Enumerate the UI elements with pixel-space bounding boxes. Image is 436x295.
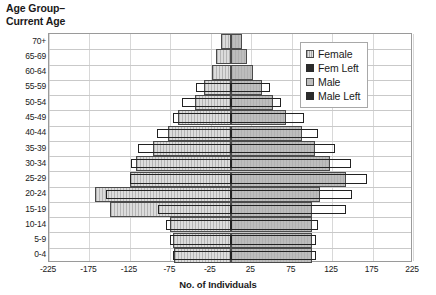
bar-femleft — [182, 98, 231, 107]
x-tick-label: 25 — [246, 264, 255, 275]
legend-item-maleleft: Male Left — [306, 89, 360, 103]
legend-swatch-icon — [306, 64, 314, 72]
legend-label: Male — [318, 76, 340, 88]
bar-femleft — [166, 220, 231, 229]
x-tick-label: -175 — [80, 264, 96, 275]
y-tick-label: 10-14 — [2, 219, 46, 229]
x-axis-title: No. of Individuals — [0, 279, 436, 290]
legend-label: Female — [318, 48, 352, 60]
y-tick-label: 0-4 — [2, 249, 46, 259]
bar-maleleft — [231, 205, 346, 214]
population-pyramid-chart: Age Group– Current Age 70+65-6960-6455-5… — [0, 0, 436, 295]
x-tick-label: 75 — [286, 264, 295, 275]
y-tick-label: 65-69 — [2, 51, 46, 61]
x-tick-label: 225 — [405, 264, 419, 275]
bar-femleft — [173, 251, 231, 260]
bar-male — [231, 49, 247, 64]
legend-label: Male Left — [318, 90, 360, 102]
x-tick-label: 175 — [365, 264, 379, 275]
legend-item-female: Female — [306, 47, 360, 61]
legend-swatch-icon — [306, 92, 314, 100]
bar-maleleft — [231, 235, 316, 244]
x-tick-label: -225 — [40, 264, 56, 275]
bar-femleft — [157, 129, 231, 138]
y-tick-label: 15-19 — [2, 204, 46, 214]
bar-maleleft — [231, 129, 318, 138]
x-tick-label: -25 — [204, 264, 216, 275]
y-axis-title: Age Group– Current Age — [6, 2, 206, 28]
bar-female — [216, 49, 231, 64]
x-tick-label: 125 — [324, 264, 338, 275]
bar-femleft — [196, 83, 231, 92]
bar-female — [221, 34, 231, 49]
bar-maleleft — [231, 174, 367, 183]
bar-maleleft — [231, 159, 351, 168]
y-tick-label: 20-24 — [2, 188, 46, 198]
bar-femleft — [106, 190, 231, 199]
bar-femleft — [131, 159, 231, 168]
chart-legend: FemaleFem LeftMaleMale Left — [300, 42, 368, 108]
y-tick-label: 35-39 — [2, 143, 46, 153]
bar-maleleft — [231, 113, 304, 122]
bar-maleleft — [231, 83, 270, 92]
y-tick-label: 60-64 — [2, 66, 46, 76]
bar-male — [231, 65, 253, 80]
bar-female — [212, 65, 231, 80]
vertical-gridline — [413, 34, 414, 261]
bar-femleft — [158, 205, 231, 214]
y-tick-label: 5-9 — [2, 234, 46, 244]
legend-swatch-icon — [306, 78, 314, 86]
y-tick-label: 50-54 — [2, 97, 46, 107]
bar-femleft — [130, 174, 231, 183]
y-axis-tick-labels: 70+65-6960-6455-5950-5445-4940-4435-3930… — [0, 33, 46, 262]
y-tick-label: 30-34 — [2, 158, 46, 168]
bar-maleleft — [231, 144, 335, 153]
y-tick-label: 55-59 — [2, 81, 46, 91]
bar-femleft — [173, 113, 231, 122]
x-tick-label: -75 — [163, 264, 175, 275]
bar-femleft — [170, 235, 231, 244]
legend-swatch-icon — [306, 50, 314, 58]
legend-item-femleft: Fem Left — [306, 61, 360, 75]
y-tick-label: 45-49 — [2, 112, 46, 122]
bar-femleft — [138, 144, 231, 153]
legend-item-male: Male — [306, 75, 360, 89]
x-tick-label: -125 — [121, 264, 137, 275]
x-axis-tick-labels: -225-175-125-75-252575125175225 — [48, 264, 412, 278]
bar-male — [231, 34, 242, 49]
bar-maleleft — [231, 98, 281, 107]
y-tick-label: 70+ — [2, 36, 46, 46]
legend-label: Fem Left — [318, 62, 359, 74]
y-tick-label: 25-29 — [2, 173, 46, 183]
y-tick-label: 40-44 — [2, 127, 46, 137]
bar-maleleft — [231, 190, 352, 199]
bar-maleleft — [231, 251, 316, 260]
bar-maleleft — [231, 220, 318, 229]
